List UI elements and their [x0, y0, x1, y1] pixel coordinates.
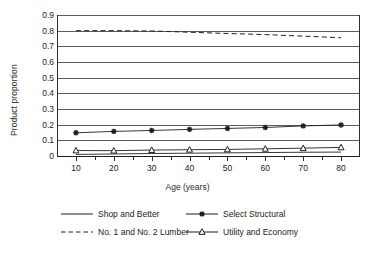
legend-item-no-1-and-no-2-lumber[interactable]: No. 1 and No. 2 Lumber — [60, 227, 185, 237]
x-tick-label: 60 — [250, 164, 280, 173]
x-tick-mark — [114, 156, 115, 161]
x-tick-label: 10 — [61, 164, 91, 173]
data-point-marker — [187, 127, 192, 132]
x-tick-mark-minor — [284, 156, 285, 160]
dashed-line-sample — [60, 227, 94, 237]
x-axis-title: Age (years) — [0, 182, 375, 192]
y-tick-label: 0.9 — [28, 11, 54, 20]
x-tick-mark-minor — [171, 156, 172, 160]
x-tick-mark-minor — [322, 156, 323, 160]
solid-line-sample — [60, 209, 94, 219]
legend-item-shop-and-better[interactable]: Shop and Better — [60, 209, 185, 219]
x-tick-mark — [76, 156, 77, 161]
chart-legend: Shop and Better Select Structural No. 1 … — [60, 205, 330, 241]
data-point-marker — [73, 130, 78, 135]
y-tick-label: 0.8 — [28, 26, 54, 35]
legend-label: No. 1 and No. 2 Lumber — [98, 227, 189, 237]
y-tick-label: 0.4 — [28, 89, 54, 98]
y-tick-label: 0.3 — [28, 105, 54, 114]
x-tick-label: 80 — [326, 164, 356, 173]
data-point-marker — [338, 122, 343, 127]
legend-item-select-structural[interactable]: Select Structural — [185, 209, 285, 219]
x-tick-mark — [152, 156, 153, 161]
data-point-marker — [111, 129, 116, 134]
data-point-marker — [263, 125, 268, 130]
x-tick-label: 50 — [212, 164, 242, 173]
solid-line-triangle-sample — [185, 227, 219, 237]
series-layer — [57, 15, 360, 156]
solid-line-star-sample — [185, 209, 219, 219]
legend-item-utility-and-economy[interactable]: Utility and Economy — [185, 227, 298, 237]
x-tick-label: 40 — [175, 164, 205, 173]
data-point-marker — [300, 123, 305, 128]
series-no-1-and-no-2-lumber — [76, 31, 341, 38]
legend-label: Select Structural — [223, 209, 285, 219]
x-tick-label: 30 — [137, 164, 167, 173]
x-tick-mark — [303, 156, 304, 161]
legend-label: Shop and Better — [98, 209, 159, 219]
legend-label: Utility and Economy — [223, 227, 298, 237]
y-axis-tick-labels: 00.10.20.30.40.50.60.70.80.9 — [28, 11, 54, 159]
x-tick-mark-minor — [95, 156, 96, 160]
series-select-structural — [73, 122, 344, 135]
y-axis-title: Product proportion — [9, 36, 23, 136]
y-tick-label: 0.6 — [28, 58, 54, 67]
y-tick-label: 0.5 — [28, 73, 54, 82]
x-tick-mark-minor — [246, 156, 247, 160]
y-tick-label: 0.1 — [28, 136, 54, 145]
series-line — [76, 31, 341, 38]
line-chart: Product proportion 00.10.20.30.40.50.60.… — [0, 0, 375, 254]
x-tick-mark — [341, 156, 342, 161]
y-tick-label: 0 — [28, 152, 54, 161]
y-tick-label: 0.2 — [28, 120, 54, 129]
data-point-marker — [225, 126, 230, 131]
x-tick-mark-minor — [133, 156, 134, 160]
x-tick-mark — [227, 156, 228, 161]
x-tick-label: 70 — [288, 164, 318, 173]
data-point-marker — [149, 128, 154, 133]
x-tick-mark — [190, 156, 191, 161]
x-tick-label: 20 — [99, 164, 129, 173]
x-tick-mark — [265, 156, 266, 161]
y-tick-label: 0.7 — [28, 42, 54, 51]
x-tick-mark-minor — [209, 156, 210, 160]
series-utility-and-economy — [73, 144, 344, 153]
